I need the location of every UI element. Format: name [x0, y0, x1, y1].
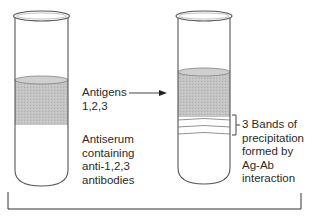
arrow-icon	[129, 90, 167, 96]
tube-rim	[14, 11, 70, 21]
bands-bracket	[232, 115, 240, 135]
tube-rim	[176, 11, 232, 21]
left-test-tube	[14, 11, 70, 186]
antigens-label: Antigens 1,2,3	[82, 86, 127, 113]
bands-label: 3 Bands of precipitation formed by Ag-Ab…	[242, 118, 304, 186]
antigen-layer	[15, 80, 68, 125]
right-test-tube	[176, 11, 232, 184]
diagram-canvas	[0, 0, 312, 223]
bottom-bracket	[8, 192, 301, 209]
antiserum-label: Antiserum containing anti-1,2,3 antibodi…	[82, 133, 134, 187]
precipitation-bands	[178, 119, 230, 135]
antigen-layer	[178, 72, 230, 117]
